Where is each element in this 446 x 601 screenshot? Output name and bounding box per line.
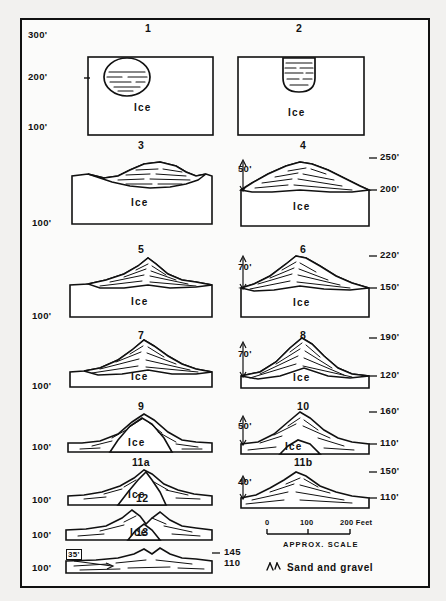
- panel-10-thickness-label: 50': [238, 420, 252, 431]
- ice-label-6: Ice: [293, 297, 311, 308]
- panel-4-elev-bottom: 200': [380, 183, 399, 194]
- panel-8-elev-bottom: 120': [380, 369, 399, 380]
- ice-label-9: Ice: [128, 437, 146, 448]
- panel-number-3: 3: [138, 139, 144, 151]
- panel-11b-drawing: [240, 472, 377, 508]
- sand-gravel-symbol: [267, 563, 280, 570]
- panel-11b-elev-top: 150': [380, 465, 399, 476]
- panel-10-elev-top: 160': [380, 405, 399, 416]
- panel-13-drawing: [66, 548, 220, 573]
- panel-13-elev-left: 100': [32, 562, 51, 573]
- figure-root: 300' 200' 100' 1 2 3 4 5 6 7 8 9 10 11a …: [0, 0, 446, 601]
- panel-6-elev-top: 220': [380, 249, 399, 260]
- scale-caption: APPROX. SCALE: [283, 540, 359, 549]
- ice-label-10: Ice: [285, 441, 303, 452]
- panel-3-drawing: [72, 162, 212, 224]
- panel-number-7: 7: [138, 329, 144, 341]
- panel-3-elev-left: 100': [32, 217, 51, 228]
- panel-4-elev-top: 250': [380, 151, 399, 162]
- axis-tick-200: 200': [28, 71, 47, 82]
- panel-13-elev-top: 145: [224, 546, 241, 557]
- ice-label-1: Ice: [134, 102, 152, 113]
- panel-5-drawing: [70, 258, 212, 317]
- panel-1-drawing: [84, 57, 213, 135]
- legend-label: Sand and gravel: [287, 562, 373, 573]
- ice-label-4: Ice: [293, 201, 311, 212]
- panel-4-thickness-label: 50': [238, 163, 252, 174]
- scale-tick-200: 200 Feet: [340, 518, 372, 527]
- ice-label-3: Ice: [131, 197, 149, 208]
- panel-number-9: 9: [138, 400, 144, 412]
- ice-label-11a: Ice: [128, 489, 146, 500]
- panel-number-10: 10: [297, 400, 309, 412]
- panel-number-11b: 11b: [294, 456, 312, 468]
- scale-tick-0: 0: [265, 518, 269, 527]
- panel-number-2: 2: [296, 22, 302, 34]
- ice-label-2: Ice: [288, 107, 306, 118]
- panel-6-elev-bottom: 150': [380, 281, 399, 292]
- panel-4-drawing: [240, 158, 377, 226]
- panel-10-elev-bottom: 110': [380, 437, 399, 448]
- cross-section-drawings: [0, 0, 446, 601]
- ice-label-5: Ice: [131, 296, 149, 307]
- panel-8-elev-top: 190': [380, 331, 399, 342]
- panel-number-1: 1: [145, 22, 151, 34]
- panel-number-5: 5: [138, 243, 144, 255]
- panel-number-8: 8: [300, 329, 306, 341]
- panel-9-elev-left: 100': [32, 441, 51, 452]
- ice-label-12: Ice: [130, 527, 148, 538]
- panel-number-6: 6: [300, 243, 306, 255]
- panel-number-4: 4: [300, 139, 306, 151]
- panel-11b-elev-bottom: 110': [380, 491, 399, 502]
- panel-6-thickness-label: 70': [238, 261, 252, 272]
- ice-label-8: Ice: [293, 372, 311, 383]
- panel-number-11a: 11a: [132, 456, 150, 468]
- panel-11b-thickness-label: 40': [238, 476, 252, 487]
- panel-7-elev-left: 100': [32, 380, 51, 391]
- scale-bar: [267, 529, 350, 534]
- ice-label-7: Ice: [131, 371, 149, 382]
- panel-12-elev-left: 100': [32, 529, 51, 540]
- axis-tick-100: 100': [28, 121, 47, 132]
- scale-tick-100: 100: [300, 518, 313, 527]
- panel-13-elev-bottom: 110: [224, 557, 240, 568]
- panel-5-elev-left: 100': [32, 310, 51, 321]
- panel-2-drawing: [238, 57, 364, 135]
- panel-11a-elev-left: 100': [32, 494, 51, 505]
- panel-8-thickness-label: 70': [238, 348, 252, 359]
- panel-13-thickness-label: 35': [66, 549, 82, 560]
- panel-10-drawing: [240, 412, 377, 454]
- axis-tick-300: 300': [28, 29, 47, 40]
